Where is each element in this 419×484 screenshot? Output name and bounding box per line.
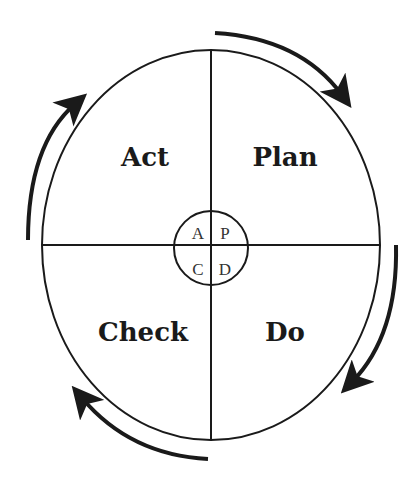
quadrant-label-act: Act xyxy=(120,142,169,172)
quadrant-label-plan: Plan xyxy=(252,142,317,172)
quadrant-label-do: Do xyxy=(265,317,305,347)
center-letter-p: P xyxy=(220,224,229,243)
quadrant-label-check: Check xyxy=(98,317,189,347)
arrow-plan-to-do-icon xyxy=(215,33,342,95)
pdca-diagram: Act Plan Check Do A P C D xyxy=(0,0,419,484)
center-letter-d: D xyxy=(219,260,231,279)
arrow-act-to-plan-icon xyxy=(28,104,75,240)
center-letter-a: A xyxy=(192,224,205,243)
arrow-check-to-act-icon xyxy=(82,398,208,459)
center-letter-c: C xyxy=(192,260,203,279)
arrow-do-to-check-icon xyxy=(352,245,396,382)
